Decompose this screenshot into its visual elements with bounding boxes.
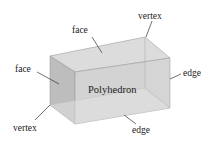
polyhedron-diagram: face vertex face edge vertex edge Polyhe… — [0, 0, 214, 149]
label-edge-bottom: edge — [132, 125, 150, 135]
label-face-top: face — [72, 25, 88, 35]
label-vertex-bottom: vertex — [13, 123, 37, 133]
label-vertex-top: vertex — [138, 11, 162, 21]
leader-vertex-top — [146, 21, 152, 37]
leader-vertex-bottom — [35, 105, 50, 120]
leader-edge-right — [170, 74, 181, 79]
polyhedron-title: Polyhedron — [88, 84, 137, 95]
leader-edge-bottom — [124, 115, 136, 124]
label-edge-right: edge — [183, 68, 201, 78]
label-face-left: face — [15, 64, 31, 74]
